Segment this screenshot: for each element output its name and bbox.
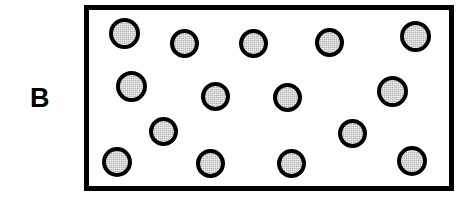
particle bbox=[201, 82, 230, 111]
particle bbox=[400, 21, 431, 52]
particle bbox=[277, 149, 306, 178]
particle bbox=[338, 119, 367, 148]
particle bbox=[377, 76, 408, 107]
particle bbox=[315, 28, 344, 57]
figure-panel-b: B bbox=[0, 0, 475, 199]
panel-label: B bbox=[30, 85, 50, 112]
particle bbox=[149, 117, 178, 146]
particle bbox=[196, 149, 225, 178]
particle bbox=[116, 71, 147, 102]
particle bbox=[397, 146, 427, 176]
particle bbox=[109, 18, 140, 49]
particle bbox=[170, 29, 199, 58]
particle bbox=[102, 147, 132, 177]
particle bbox=[239, 29, 268, 58]
particle bbox=[273, 83, 302, 112]
